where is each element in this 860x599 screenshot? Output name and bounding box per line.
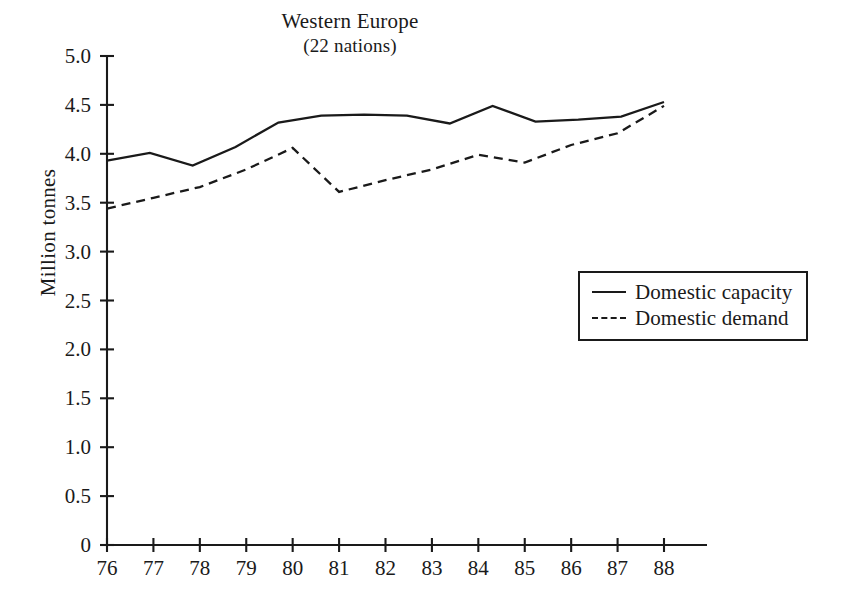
chart-figure: Western Europe (22 nations) Million tonn… <box>0 0 860 599</box>
y-tick-label: 1.5 <box>65 386 91 410</box>
line-solid-icon <box>592 285 626 299</box>
x-tick-label: 85 <box>514 556 535 580</box>
x-tick-label: 82 <box>375 556 396 580</box>
series-line-domestic-capacity <box>107 102 664 166</box>
y-tick-label: 4.0 <box>65 142 91 166</box>
line-dashed-icon <box>592 311 626 325</box>
y-tick-label: 2.0 <box>65 337 91 361</box>
x-tick-label: 86 <box>561 556 582 580</box>
x-tick-label: 78 <box>189 556 210 580</box>
legend-item-domestic-capacity: Domestic capacity <box>592 279 792 305</box>
y-tick-label: 3.0 <box>65 240 91 264</box>
y-tick-label: 2.5 <box>65 289 91 313</box>
x-tick-label: 88 <box>654 556 675 580</box>
y-tick-label: 5.0 <box>65 44 91 68</box>
series-line-domestic-demand <box>107 106 664 209</box>
x-tick-label: 80 <box>282 556 303 580</box>
legend-label: Domestic capacity <box>635 280 792 305</box>
legend-item-domestic-demand: Domestic demand <box>592 305 792 331</box>
x-tick-label: 76 <box>97 556 118 580</box>
x-tick-label: 77 <box>143 556 164 580</box>
chart-legend: Domestic capacity Domestic demand <box>578 271 808 341</box>
x-tick-label: 79 <box>236 556 257 580</box>
y-tick-label: 1.0 <box>65 435 91 459</box>
legend-label: Domestic demand <box>635 306 789 331</box>
y-tick-label: 4.5 <box>65 93 91 117</box>
y-tick-label: 3.5 <box>65 191 91 215</box>
y-tick-label: 0 <box>81 533 92 557</box>
x-tick-label: 84 <box>468 556 490 580</box>
x-tick-label: 87 <box>607 556 628 580</box>
y-tick-label: 0.5 <box>65 484 91 508</box>
x-tick-label: 81 <box>329 556 350 580</box>
x-tick-label: 83 <box>421 556 442 580</box>
